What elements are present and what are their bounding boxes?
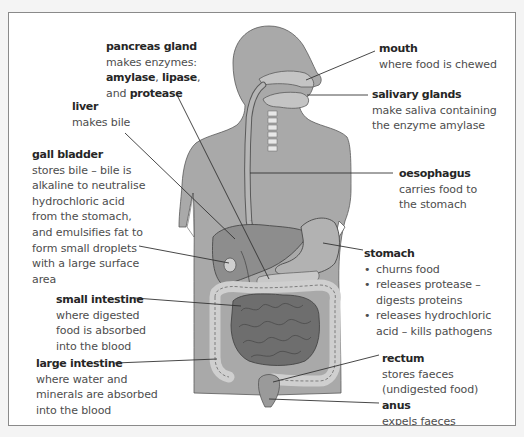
rectum	[258, 375, 279, 408]
gall-bladder-line: alkaline to neutralise	[32, 178, 145, 194]
bullet-continuation: acid – kills pathogens	[364, 324, 492, 340]
diagram-panel: pancreas gland makes enzymes: amylase, l…	[8, 12, 516, 426]
small-intestine-line: into the blood	[56, 339, 146, 355]
bullet-continuation: digests proteins	[364, 293, 492, 309]
bullet-icon: •	[364, 277, 376, 293]
rectum-line: stores faeces	[382, 367, 478, 383]
pancreas-enzymes-line: amylase, lipase,	[106, 70, 200, 86]
small-intestine-title: small intestine	[56, 292, 146, 308]
gall-bladder-line: and emulsifies fat to	[32, 225, 145, 241]
large-intestine-line: into the blood	[36, 403, 158, 419]
bullet-text: releases protease –	[376, 278, 481, 291]
large-intestine-title: large intestine	[36, 356, 158, 372]
oesophagus-line: carries food to	[399, 182, 477, 198]
label-mouth: mouth where food is chewed	[379, 41, 497, 72]
mouth-line1: where food is chewed	[379, 57, 497, 73]
anus-line1: expels faeces	[382, 414, 456, 426]
oesophagus-line: the stomach	[399, 197, 477, 213]
large-intestine-line: minerals are absorbed	[36, 387, 158, 403]
enzyme-protease: protease	[130, 87, 183, 100]
gall-bladder-line: hydrochloric acid	[32, 194, 145, 210]
rectum-line: (undigested food)	[382, 382, 478, 398]
salivary-glands-title: salivary glands	[372, 87, 497, 103]
stomach-title: stomach	[364, 246, 492, 262]
mouth-title: mouth	[379, 41, 497, 57]
label-salivary-glands: salivary glands make saliva containing t…	[372, 87, 497, 134]
label-gall-bladder: gall bladder stores bile – bile is alkal…	[32, 147, 145, 287]
gall-bladder-title: gall bladder	[32, 147, 145, 163]
label-liver: liver makes bile	[72, 99, 130, 130]
and-text: and	[106, 87, 130, 100]
pancreas-title: pancreas gland	[106, 39, 200, 55]
label-large-intestine: large intestine where water and minerals…	[36, 356, 158, 418]
label-pancreas-gland: pancreas gland makes enzymes: amylase, l…	[106, 39, 200, 101]
label-rectum: rectum stores faeces (undigested food)	[382, 351, 478, 398]
gall-bladder-line: stores bile – bile is	[32, 163, 145, 179]
label-small-intestine: small intestine where digested food is a…	[56, 292, 146, 354]
stomach-bullet: •releases protease –	[364, 277, 492, 293]
bullet-icon: •	[364, 308, 376, 324]
bullet-icon: •	[364, 262, 376, 278]
enzyme-lipase: lipase	[162, 71, 197, 84]
separator: ,	[197, 71, 200, 84]
stomach-bullet: •churns food	[364, 262, 492, 278]
small-intestine-line: where digested	[56, 308, 146, 324]
separator: ,	[155, 71, 162, 84]
salivary-glands-line: make saliva containing	[372, 103, 497, 119]
anus-title: anus	[382, 398, 456, 414]
mouth-leader	[306, 51, 375, 80]
bullet-text: churns food	[376, 263, 440, 276]
label-stomach: stomach •churns food •releases protease …	[364, 246, 492, 340]
small-intestine-line: food is absorbed	[56, 323, 146, 339]
small-intestine	[231, 294, 319, 366]
oesophagus-title: oesophagus	[399, 166, 477, 182]
enzyme-amylase: amylase	[106, 71, 155, 84]
bullet-text: releases hydrochloric	[376, 309, 491, 322]
anus-leader	[269, 399, 379, 403]
liver-title: liver	[72, 99, 130, 115]
liver-line1: makes bile	[72, 115, 130, 131]
gall-bladder-line: from the stomach,	[32, 209, 145, 225]
pancreas-line1: makes enzymes:	[106, 55, 200, 71]
gall-bladder-line: with a large surface	[32, 256, 145, 272]
large-intestine-line: where water and	[36, 372, 158, 388]
stomach-bullet: •releases hydrochloric	[364, 308, 492, 324]
label-oesophagus: oesophagus carries food to the stomach	[399, 166, 477, 213]
gall-bladder-line: area	[32, 272, 145, 288]
gall-bladder-line: form small droplets	[32, 241, 145, 257]
gall-bladder	[224, 258, 236, 272]
salivary-glands-line: the enzyme amylase	[372, 118, 497, 134]
label-anus: anus expels faeces	[382, 398, 456, 426]
rectum-title: rectum	[382, 351, 478, 367]
